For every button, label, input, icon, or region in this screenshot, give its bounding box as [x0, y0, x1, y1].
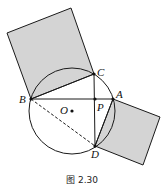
label-a: A: [115, 88, 123, 100]
label-o: O: [60, 104, 68, 116]
point-b: [29, 97, 32, 100]
point-c: [92, 72, 95, 75]
label-p: P: [96, 101, 104, 113]
label-d: D: [90, 148, 99, 160]
point-a: [111, 97, 114, 100]
label-b: B: [19, 93, 26, 105]
segment-cd: [94, 74, 95, 146]
square-on-bc: [7, 8, 94, 99]
point-o: [70, 109, 73, 112]
square-on-ad: [95, 99, 160, 165]
geometry-figure: C B A P O D 图 2.30: [0, 0, 167, 186]
figure-caption: 图 2.30: [66, 175, 98, 185]
label-c: C: [97, 66, 105, 78]
